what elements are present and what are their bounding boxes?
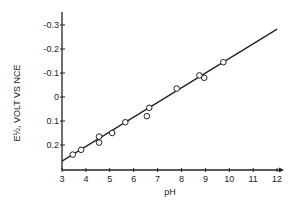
x-tick-label: 12 xyxy=(272,174,282,184)
x-tick-label: 4 xyxy=(83,174,88,184)
y-tick-label: 0.1 xyxy=(46,116,59,126)
x-tick-label: 3 xyxy=(59,174,64,184)
fit-line xyxy=(62,29,277,161)
y-tick-label: 0 xyxy=(54,92,59,102)
ticks: 3456789101112-0.3-0.2-0.100.10.2 xyxy=(43,20,282,184)
x-axis-title: pH xyxy=(164,187,176,197)
data-point-circle-icon xyxy=(78,147,84,153)
data-point-circle-icon xyxy=(174,86,180,92)
data-point-circle-icon xyxy=(109,130,115,136)
data-point-circle-icon xyxy=(123,119,129,125)
y-axis-title: E½, VOLT VS NCE xyxy=(12,64,22,141)
data-point-circle-icon xyxy=(70,152,76,158)
x-axis-arrow-icon xyxy=(279,168,284,173)
data-point-circle-icon xyxy=(144,113,150,119)
data-point-circle-icon xyxy=(96,134,102,140)
x-tick-label: 9 xyxy=(203,174,208,184)
y-tick-label: 0.2 xyxy=(46,140,59,150)
y-tick-label: -0.3 xyxy=(43,20,59,30)
x-tick-label: 10 xyxy=(224,174,234,184)
x-tick-label: 8 xyxy=(179,174,184,184)
x-tick-label: 7 xyxy=(155,174,160,184)
data-point-circle-icon xyxy=(96,140,102,146)
chart: 3456789101112-0.3-0.2-0.100.10.2 pH E½, … xyxy=(0,0,295,210)
x-tick-label: 5 xyxy=(107,174,112,184)
data-point-circle-icon xyxy=(201,75,207,81)
data-point-circle-icon xyxy=(146,105,152,111)
data-point-circle-icon xyxy=(221,59,227,65)
x-tick-label: 6 xyxy=(131,174,136,184)
x-tick-label: 11 xyxy=(249,174,258,184)
regression-line xyxy=(62,29,277,161)
y-tick-label: -0.2 xyxy=(43,44,59,54)
y-tick-label: -0.1 xyxy=(43,68,59,78)
